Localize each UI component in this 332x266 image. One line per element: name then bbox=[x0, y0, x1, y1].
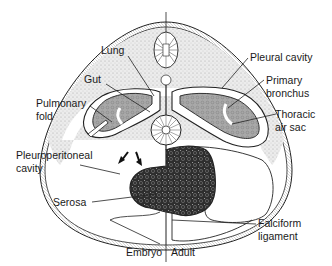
label-primary-bronchus-1: Primary bbox=[266, 74, 303, 86]
label-thoracic-air-sac-2: air sac bbox=[275, 121, 306, 133]
gut-lumen bbox=[162, 126, 170, 134]
label-pleural-cavity: Pleural cavity bbox=[250, 51, 313, 63]
label-pleuroperitoneal-2: cavity bbox=[16, 162, 44, 174]
label-thoracic-air-sac-1: Thoracic bbox=[275, 108, 315, 120]
label-primary-bronchus-2: bronchus bbox=[266, 87, 309, 99]
avian-body-cavity-diagram: Lung Gut Pulmonary fold Pleuroperitoneal… bbox=[0, 0, 332, 266]
label-adult: Adult bbox=[171, 246, 195, 258]
label-pleuroperitoneal-1: Pleuroperitoneal bbox=[16, 149, 92, 161]
label-falciform-1: Falciform bbox=[258, 217, 301, 229]
label-lung: Lung bbox=[101, 44, 125, 56]
notochord bbox=[163, 44, 169, 56]
label-gut: Gut bbox=[84, 73, 101, 85]
label-pulmonary-fold-2: fold bbox=[36, 110, 53, 122]
label-falciform-2: ligament bbox=[258, 230, 298, 242]
label-serosa: Serosa bbox=[53, 196, 86, 208]
label-pulmonary-fold-1: Pulmonary bbox=[36, 97, 87, 109]
label-embryo: Embryo bbox=[126, 246, 162, 258]
aorta bbox=[161, 75, 171, 85]
